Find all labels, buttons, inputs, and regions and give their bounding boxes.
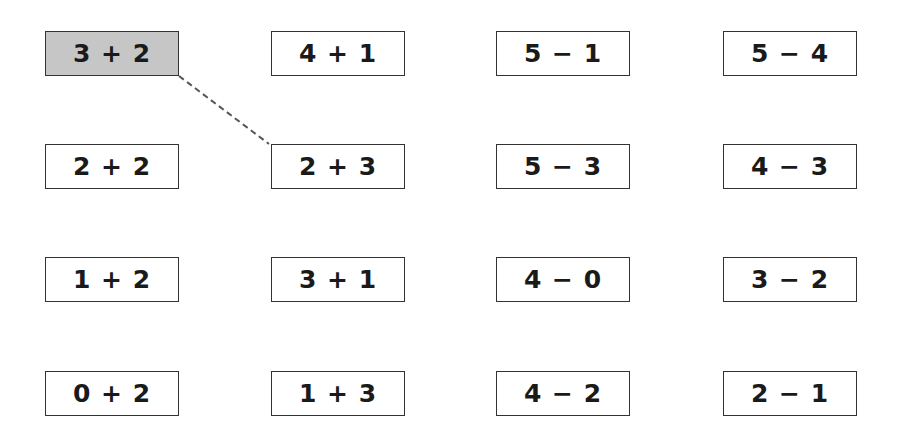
expression-label: 5 − 1 [524,39,602,68]
expression-card-r0-c2[interactable]: 5 − 1 [496,31,630,76]
expression-card-r1-c2[interactable]: 5 − 3 [496,144,630,189]
expression-card-r3-c2[interactable]: 4 − 2 [496,371,630,416]
expression-label: 5 − 4 [751,39,829,68]
expression-label: 4 + 1 [299,39,377,68]
expression-card-r2-c2[interactable]: 4 − 0 [496,257,630,302]
expression-card-r0-c3[interactable]: 5 − 4 [723,31,857,76]
expression-label: 3 − 2 [751,265,829,294]
expression-card-r1-c3[interactable]: 4 − 3 [723,144,857,189]
expression-card-r3-c0[interactable]: 0 + 2 [45,371,179,416]
expression-label: 4 − 0 [524,265,602,294]
expression-label: 4 − 2 [524,379,602,408]
expression-card-r2-c1[interactable]: 3 + 1 [271,257,405,302]
expression-card-r3-c3[interactable]: 2 − 1 [723,371,857,416]
expression-label: 4 − 3 [751,152,829,181]
expression-label: 1 + 3 [299,379,377,408]
expression-label: 2 − 1 [751,379,829,408]
expression-label: 5 − 3 [524,152,602,181]
expression-card-r0-c0-selected[interactable]: 3 + 2 [45,31,179,76]
expression-card-r3-c1[interactable]: 1 + 3 [271,371,405,416]
expression-label: 1 + 2 [73,265,151,294]
expression-card-r1-c1[interactable]: 2 + 3 [271,144,405,189]
expression-card-r2-c0[interactable]: 1 + 2 [45,257,179,302]
expression-label: 3 + 1 [299,265,377,294]
expression-label: 3 + 2 [73,39,151,68]
expression-card-r1-c0[interactable]: 2 + 2 [45,144,179,189]
expression-label: 2 + 3 [299,152,377,181]
expression-label: 2 + 2 [73,152,151,181]
expression-card-r2-c3[interactable]: 3 − 2 [723,257,857,302]
expression-card-r0-c1[interactable]: 4 + 1 [271,31,405,76]
expression-label: 0 + 2 [73,379,151,408]
